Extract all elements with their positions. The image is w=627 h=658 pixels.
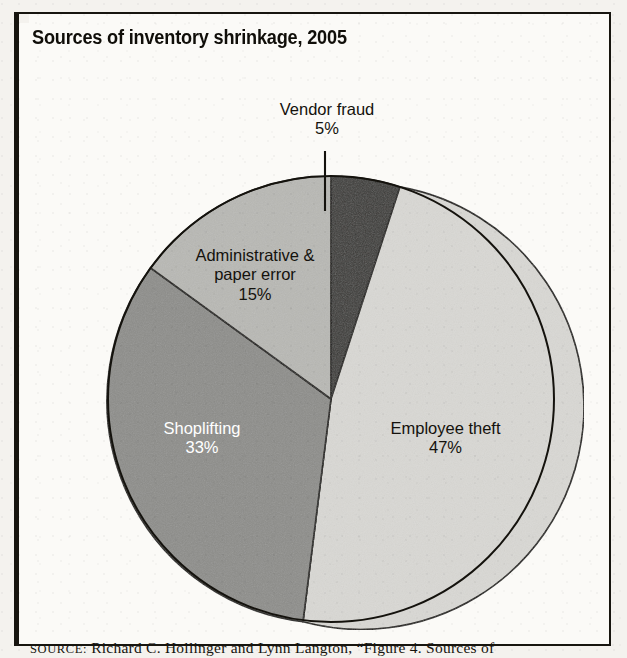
pie-label-shoplifting: Shoplifting 33% — [122, 419, 282, 458]
source-caption: SOURCE: Richard C. Hollinger and Lynn La… — [30, 639, 610, 657]
pie-chart-svg — [0, 0, 627, 658]
figure-page: Sources of inventory shrinkage, 2005 — [0, 0, 627, 658]
source-caption-prefix: SOURCE: — [30, 642, 87, 656]
page-title: Sources of inventory shrinkage, 2005 — [32, 26, 347, 49]
pie-label-employee-theft: Employee theft 47% — [358, 419, 533, 458]
source-caption-text: Richard C. Hollinger and Lynn Langton, “… — [87, 639, 494, 656]
pie-chart: Vendor fraud 5% Administrative & paper e… — [0, 0, 627, 658]
pie-label-vendor-fraud: Vendor fraud 5% — [237, 100, 417, 139]
pie-label-administrative: Administrative & paper error 15% — [175, 246, 335, 304]
